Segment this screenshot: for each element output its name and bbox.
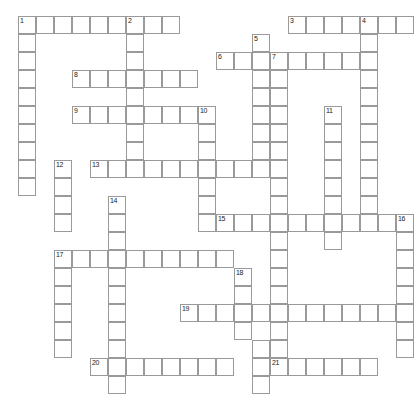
- crossword-cell[interactable]: [144, 358, 162, 376]
- crossword-cell[interactable]: [342, 52, 360, 70]
- crossword-cell[interactable]: [234, 52, 252, 70]
- crossword-cell[interactable]: [288, 214, 306, 232]
- crossword-cell[interactable]: [252, 142, 270, 160]
- crossword-cell[interactable]: [324, 214, 342, 232]
- crossword-cell[interactable]: [306, 358, 324, 376]
- crossword-cell[interactable]: [108, 232, 126, 250]
- crossword-cell-numbered-16[interactable]: 16: [396, 214, 414, 232]
- crossword-cell[interactable]: [360, 142, 378, 160]
- crossword-cell[interactable]: [216, 358, 234, 376]
- crossword-cell-numbered-10[interactable]: 10: [198, 106, 216, 124]
- crossword-cell[interactable]: [396, 340, 414, 358]
- crossword-cell[interactable]: [288, 52, 306, 70]
- crossword-cell[interactable]: [180, 70, 198, 88]
- crossword-cell[interactable]: [162, 160, 180, 178]
- crossword-cell[interactable]: [342, 358, 360, 376]
- crossword-cell[interactable]: [234, 304, 252, 322]
- crossword-cell[interactable]: [288, 304, 306, 322]
- crossword-cell[interactable]: [36, 16, 54, 34]
- crossword-cell[interactable]: [234, 286, 252, 304]
- crossword-cell[interactable]: [270, 124, 288, 142]
- crossword-cell-numbered-11[interactable]: 11: [324, 106, 342, 124]
- crossword-cell[interactable]: [126, 88, 144, 106]
- crossword-cell[interactable]: [108, 340, 126, 358]
- crossword-cell[interactable]: [180, 160, 198, 178]
- crossword-cell-numbered-14[interactable]: 14: [108, 196, 126, 214]
- crossword-cell[interactable]: [198, 142, 216, 160]
- crossword-cell-numbered-15[interactable]: 15: [216, 214, 234, 232]
- crossword-cell[interactable]: [108, 250, 126, 268]
- crossword-cell-numbered-17[interactable]: 17: [54, 250, 72, 268]
- crossword-cell[interactable]: [270, 70, 288, 88]
- crossword-cell[interactable]: [180, 358, 198, 376]
- crossword-cell[interactable]: [180, 106, 198, 124]
- crossword-cell[interactable]: [162, 250, 180, 268]
- crossword-cell[interactable]: [324, 196, 342, 214]
- crossword-cell[interactable]: [270, 250, 288, 268]
- crossword-cell[interactable]: [108, 106, 126, 124]
- crossword-cell[interactable]: [198, 124, 216, 142]
- crossword-cell[interactable]: [108, 268, 126, 286]
- crossword-cell[interactable]: [144, 160, 162, 178]
- crossword-cell[interactable]: [324, 160, 342, 178]
- crossword-cell[interactable]: [270, 268, 288, 286]
- crossword-cell[interactable]: [360, 358, 378, 376]
- crossword-cell[interactable]: [396, 304, 414, 322]
- crossword-cell[interactable]: [90, 106, 108, 124]
- crossword-cell[interactable]: [198, 160, 216, 178]
- crossword-cell[interactable]: [198, 196, 216, 214]
- crossword-cell[interactable]: [396, 322, 414, 340]
- crossword-cell[interactable]: [270, 88, 288, 106]
- crossword-cell[interactable]: [252, 376, 270, 394]
- crossword-cell[interactable]: [252, 340, 270, 358]
- crossword-cell[interactable]: [324, 124, 342, 142]
- crossword-cell[interactable]: [126, 358, 144, 376]
- crossword-cell[interactable]: [198, 358, 216, 376]
- crossword-cell[interactable]: [270, 214, 288, 232]
- crossword-cell[interactable]: [252, 214, 270, 232]
- crossword-cell[interactable]: [18, 106, 36, 124]
- crossword-cell-numbered-12[interactable]: 12: [54, 160, 72, 178]
- crossword-cell[interactable]: [252, 70, 270, 88]
- crossword-cell[interactable]: [198, 304, 216, 322]
- crossword-cell-numbered-9[interactable]: 9: [72, 106, 90, 124]
- crossword-cell-numbered-19[interactable]: 19: [180, 304, 198, 322]
- crossword-cell[interactable]: [270, 322, 288, 340]
- crossword-cell-numbered-1[interactable]: 1: [18, 16, 36, 34]
- crossword-cell[interactable]: [306, 214, 324, 232]
- crossword-cell[interactable]: [342, 304, 360, 322]
- crossword-cell[interactable]: [90, 70, 108, 88]
- crossword-cell[interactable]: [126, 124, 144, 142]
- crossword-cell[interactable]: [126, 34, 144, 52]
- crossword-cell[interactable]: [54, 196, 72, 214]
- crossword-cell-numbered-21[interactable]: 21: [270, 358, 288, 376]
- crossword-cell[interactable]: [360, 106, 378, 124]
- crossword-cell[interactable]: [270, 142, 288, 160]
- crossword-cell[interactable]: [234, 214, 252, 232]
- crossword-cell[interactable]: [18, 160, 36, 178]
- crossword-cell[interactable]: [252, 124, 270, 142]
- crossword-cell-numbered-7[interactable]: 7: [270, 52, 288, 70]
- crossword-cell-numbered-3[interactable]: 3: [288, 16, 306, 34]
- crossword-cell[interactable]: [270, 178, 288, 196]
- crossword-cell[interactable]: [126, 52, 144, 70]
- crossword-cell[interactable]: [396, 232, 414, 250]
- crossword-cell[interactable]: [72, 250, 90, 268]
- crossword-cell[interactable]: [234, 322, 252, 340]
- crossword-cell[interactable]: [144, 250, 162, 268]
- crossword-cell[interactable]: [270, 304, 288, 322]
- crossword-cell[interactable]: [396, 16, 414, 34]
- crossword-cell[interactable]: [342, 16, 360, 34]
- crossword-cell[interactable]: [18, 178, 36, 196]
- crossword-cell[interactable]: [18, 142, 36, 160]
- crossword-cell[interactable]: [378, 16, 396, 34]
- crossword-cell[interactable]: [360, 196, 378, 214]
- crossword-cell[interactable]: [252, 304, 270, 322]
- crossword-cell[interactable]: [324, 232, 342, 250]
- crossword-cell[interactable]: [306, 52, 324, 70]
- crossword-cell[interactable]: [144, 16, 162, 34]
- crossword-cell[interactable]: [324, 52, 342, 70]
- crossword-cell[interactable]: [252, 106, 270, 124]
- crossword-cell[interactable]: [108, 304, 126, 322]
- crossword-cell[interactable]: [252, 52, 270, 70]
